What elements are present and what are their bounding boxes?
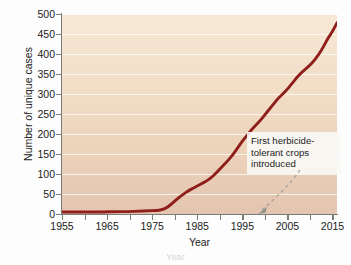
y-axis-tick-label: 0 bbox=[9, 209, 55, 219]
x-axis-title: Year bbox=[62, 236, 337, 248]
x-axis-tick-label: 1985 bbox=[175, 220, 219, 232]
x-axis-tick-label: 2005 bbox=[265, 220, 309, 232]
x-axis-tick-label: 1975 bbox=[130, 220, 174, 232]
x-axis-tick-label: 2015 bbox=[310, 220, 351, 232]
y-axis-tick bbox=[56, 114, 62, 115]
y-axis-tick bbox=[56, 54, 62, 55]
y-axis-tick bbox=[56, 154, 62, 155]
x-axis-tick-label: 1965 bbox=[85, 220, 129, 232]
caption-remnant: Year bbox=[0, 252, 351, 262]
annotation-line-2: tolerant crops bbox=[251, 147, 339, 159]
annotation-line-1: First herbicide- bbox=[251, 135, 339, 147]
y-axis-tick bbox=[56, 74, 62, 75]
chart-figure: 050100150200250300350400450500 195519651… bbox=[0, 0, 351, 265]
y-axis-tick bbox=[56, 194, 62, 195]
y-axis-tick bbox=[56, 14, 62, 15]
x-axis-tick-label: 1955 bbox=[40, 220, 84, 232]
annotation-arrow-icon bbox=[252, 168, 304, 216]
x-axis-tick-label: 1995 bbox=[220, 220, 264, 232]
y-axis-title: Number of unique cases bbox=[22, 14, 34, 194]
y-axis-tick bbox=[56, 174, 62, 175]
y-axis-tick bbox=[56, 134, 62, 135]
y-axis-tick bbox=[56, 34, 62, 35]
y-axis-tick bbox=[56, 94, 62, 95]
